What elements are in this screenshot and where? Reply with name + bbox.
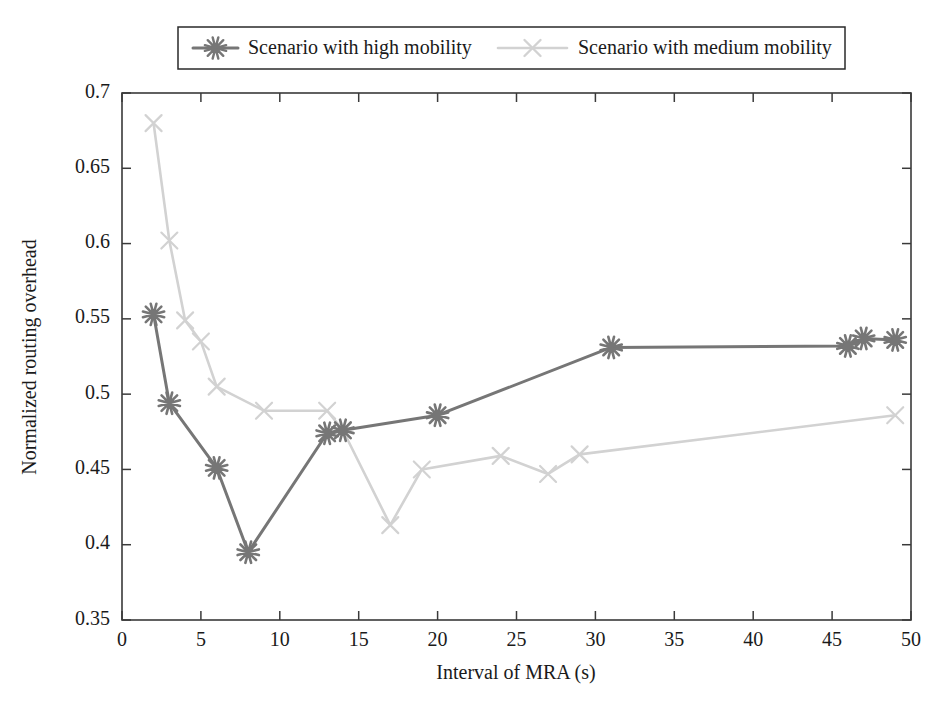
- y-tick-label: 0.4: [85, 531, 110, 553]
- series-line: [154, 314, 896, 552]
- y-tick-label: 0.45: [75, 456, 110, 478]
- y-tick-label: 0.6: [85, 230, 110, 252]
- data-point-marker: [238, 542, 259, 563]
- data-point-marker: [193, 333, 209, 349]
- line-chart: 0.350.40.450.50.550.60.650.7051015202530…: [0, 0, 949, 712]
- y-tick-label: 0.7: [85, 80, 110, 102]
- series-layer: [143, 115, 906, 563]
- chart-figure: 0.350.40.450.50.550.60.650.7051015202530…: [0, 0, 949, 712]
- y-tick-label: 0.35: [75, 607, 110, 629]
- x-tick-label: 35: [664, 628, 684, 650]
- x-tick-label: 30: [585, 628, 605, 650]
- x-tick-label: 0: [117, 628, 127, 650]
- plot-frame: [122, 93, 911, 620]
- legend-label-2: Scenario with medium mobility: [578, 36, 832, 59]
- x-tick-label: 15: [349, 628, 369, 650]
- x-tick-label: 10: [270, 628, 290, 650]
- data-point-marker: [382, 517, 398, 533]
- series-line: [154, 123, 896, 525]
- y-axis-title: Normalized routing overhead: [18, 239, 41, 474]
- y-tick-label: 0.5: [85, 381, 110, 403]
- y-tick-label: 0.55: [75, 305, 110, 327]
- x-axis-title: Interval of MRA (s): [436, 661, 595, 684]
- x-tick-label: 25: [507, 628, 527, 650]
- x-tick-label: 50: [901, 628, 921, 650]
- legend-label-1: Scenario with high mobility: [248, 36, 472, 59]
- x-tick-label: 20: [428, 628, 448, 650]
- series-1: [143, 304, 906, 563]
- data-point-marker: [540, 466, 556, 482]
- series-2: [146, 115, 904, 533]
- data-point-marker: [206, 457, 227, 478]
- data-point-marker: [209, 379, 225, 395]
- chart-legend: Scenario with high mobilityScenario with…: [178, 27, 845, 69]
- y-tick-label: 0.65: [75, 155, 110, 177]
- x-tick-label: 45: [822, 628, 842, 650]
- axis-ticks-layer: 0.350.40.450.50.550.60.650.7051015202530…: [75, 80, 921, 651]
- x-tick-label: 40: [743, 628, 763, 650]
- x-tick-label: 5: [196, 628, 206, 650]
